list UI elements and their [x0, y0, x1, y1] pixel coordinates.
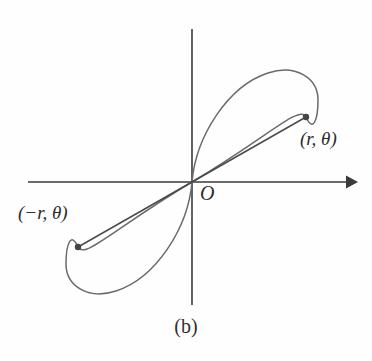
polar-coordinates-figure: (r, θ) (−r, θ) O (b)	[0, 0, 372, 361]
axes-group	[28, 29, 358, 305]
figure-canvas	[0, 0, 372, 361]
point-neg-r-theta-marker	[75, 244, 81, 250]
label-point-r-theta: (r, θ)	[300, 129, 337, 148]
figure-caption: (b)	[0, 316, 372, 336]
upper-right-petal	[192, 70, 318, 182]
label-origin: O	[200, 183, 214, 203]
point-r-theta-marker	[303, 114, 309, 120]
x-axis-arrowhead	[346, 176, 358, 189]
label-point-negative-r-theta: (−r, θ)	[18, 203, 68, 222]
lower-left-petal	[66, 182, 192, 294]
